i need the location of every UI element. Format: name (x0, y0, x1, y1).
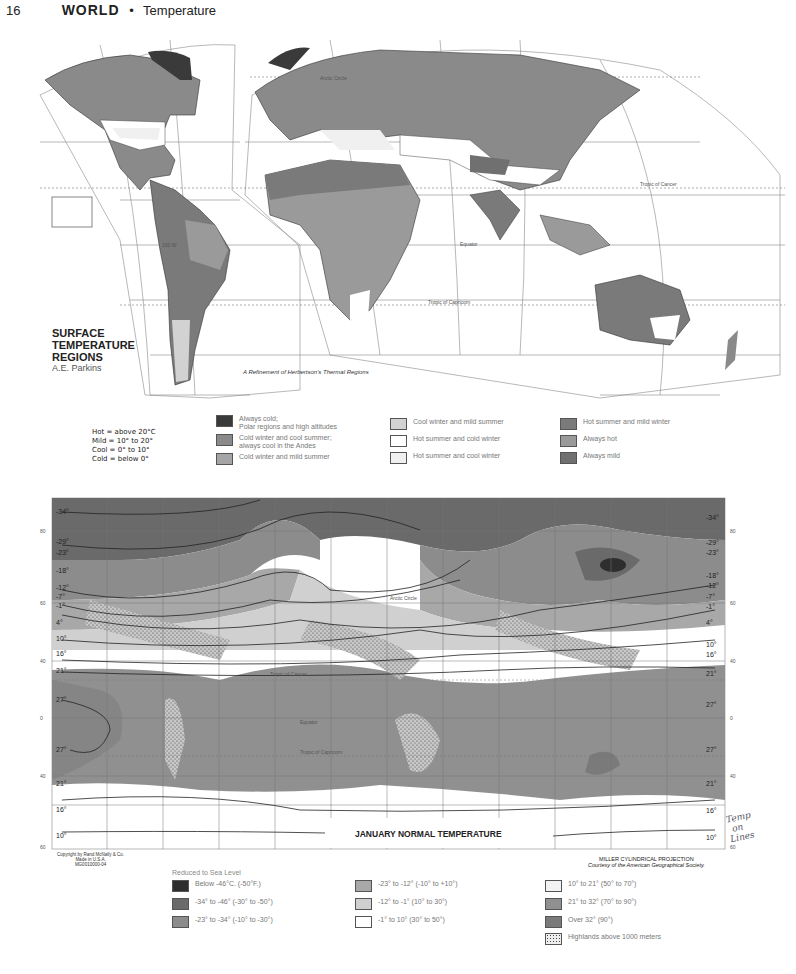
topic-title: Temperature (143, 3, 216, 18)
map-subcaption: A Refinement of Herbertson's Thermal Reg… (243, 369, 369, 375)
isotherm-label: -29° (706, 539, 719, 546)
legend-item: Over 32° (90°) (545, 916, 613, 928)
isotherm-label: -34° (706, 514, 719, 521)
legend-swatch (390, 418, 407, 430)
map-author: A.E. Parkins (52, 363, 102, 373)
legend-item: 10° to 21° (50° to 70°) (545, 880, 636, 892)
legend-item: -34° to -46° (-30° to -50°) (172, 898, 273, 910)
legend-label: 10° to 21° (50° to 70°) (568, 880, 636, 888)
key-line: Cool = 0° to 10° (92, 446, 156, 455)
courtesy-line: Courtesy of the American Geographical So… (588, 862, 705, 868)
legend-item: Highlands above 1000 meters (545, 933, 661, 945)
isotherm-label: 10° (56, 832, 67, 839)
isotherm-label: 27° (706, 701, 717, 708)
legend-heading: Reduced to Sea Level (172, 869, 241, 876)
title-line: REGIONS (52, 351, 135, 363)
isotherm-label: -34° (56, 508, 69, 515)
legend-label: 21° to 32° (70° to 90°) (568, 898, 636, 906)
legend-label: Hot summer and cold winter (413, 435, 500, 443)
legend-label: Cold winter and mild summer (239, 453, 330, 461)
title-line: TEMPERATURE (52, 339, 135, 351)
isotherm-label: -7° (706, 593, 715, 600)
legend-label: Always cold; Polar regions and high alti… (239, 415, 337, 431)
isotherm-label: -23° (56, 549, 69, 556)
legend-swatch (545, 880, 562, 892)
isotherm-label: 16° (706, 807, 717, 814)
legend-swatch (560, 435, 577, 447)
svg-text:Equator: Equator (460, 241, 478, 247)
isotherm-label: -7° (56, 593, 65, 600)
legend-item: Hot summer and cool winter (390, 452, 500, 464)
svg-text:Arctic Circle: Arctic Circle (320, 75, 347, 81)
legend-swatch (560, 418, 577, 430)
isotherm-label: 10° (56, 635, 67, 642)
section-title: WORLD (62, 2, 120, 18)
legend-item: -23° to -12° (-10° to +10°) (355, 880, 458, 892)
isotherm-label: 16° (56, 806, 67, 813)
surface-map-title: SURFACE TEMPERATURE REGIONS (52, 327, 135, 363)
isotherm-label: 27° (56, 696, 67, 703)
legend-label: Cold winter and cool summer; always cool… (239, 434, 332, 450)
legend-label: -1° to 10° (30° to 50°) (378, 916, 445, 924)
highlands-swatch (545, 933, 562, 945)
legend-swatch (172, 916, 189, 928)
projection-note: MILLER CYLINDRICAL PROJECTION Courtesy o… (588, 856, 705, 868)
isotherm-label: 16° (56, 650, 67, 657)
legend-label: -12° to -1° (10° to 30°) (378, 898, 447, 906)
legend-item: Always mild (560, 452, 620, 464)
legend-label: Hot summer and mild winter (583, 418, 670, 426)
isotherm-label: 16° (706, 651, 717, 658)
legend-swatch (172, 880, 189, 892)
legend-item: Cool winter and mild summer (390, 418, 504, 430)
legend-label: -23° to -12° (-10° to +10°) (378, 880, 458, 888)
isotherm-label: -29° (56, 538, 69, 545)
legend-item: Below -46°C. (-50°F.) (172, 880, 261, 892)
legend-label: Always hot (583, 435, 617, 443)
svg-text:Tropic of Cancer: Tropic of Cancer (640, 181, 677, 187)
isotherm-label: 27° (706, 746, 717, 753)
legend-label: Highlands above 1000 meters (568, 933, 661, 941)
svg-text:Tropic of Capricorn: Tropic of Capricorn (428, 299, 471, 305)
isotherm-label: 10° (706, 834, 717, 841)
isotherm-label: -12° (706, 582, 719, 589)
legend-item: -1° to 10° (30° to 50°) (355, 916, 445, 928)
legend-item: Cold winter and mild summer (216, 453, 330, 465)
copyright-line: MG0010000-04 (57, 862, 124, 867)
legend-label: Hot summer and cool winter (413, 452, 500, 460)
temperature-key: Hot = above 20°C Mild = 10° to 20° Cool … (92, 428, 156, 464)
key-line: Hot = above 20°C (92, 428, 156, 437)
legend-swatch (560, 452, 577, 464)
legend-item: -12° to -1° (10° to 30°) (355, 898, 447, 910)
legend-label: -34° to -46° (-30° to -50°) (195, 898, 273, 906)
legend-item: Cold winter and cool summer; always cool… (216, 434, 332, 450)
legend-label: Cool winter and mild summer (413, 418, 504, 426)
legend-label: Below -46°C. (-50°F.) (195, 880, 261, 888)
isotherm-label: 4° (56, 619, 63, 626)
title-line: SURFACE (52, 327, 135, 339)
legend-label: Always mild (583, 452, 620, 460)
isotherm-label: 21° (56, 667, 67, 674)
legend-item: Always cold; Polar regions and high alti… (216, 415, 337, 431)
legend-swatch (355, 916, 372, 928)
isotherm-label: -23° (706, 549, 719, 556)
legend-label: -23° to -34° (-10° to -30°) (195, 916, 273, 924)
legend-swatch (545, 898, 562, 910)
legend-swatch (545, 916, 562, 928)
page-header: 16 WORLD • Temperature (6, 2, 216, 18)
isotherm-label: 4° (706, 619, 713, 626)
isotherm-label: -18° (706, 572, 719, 579)
isotherm-label: 21° (706, 670, 717, 677)
legend-swatch (216, 434, 233, 446)
legend-swatch (390, 452, 407, 464)
legend-item: -23° to -34° (-10° to -30°) (172, 916, 273, 928)
separator: • (129, 3, 134, 18)
isotherm-label: 27° (56, 746, 67, 753)
page-number: 16 (6, 3, 58, 18)
legend-item: 21° to 32° (70° to 90°) (545, 898, 636, 910)
isotherm-label: -18° (56, 567, 69, 574)
isotherm-label: -12° (56, 584, 69, 591)
isotherm-label: 21° (56, 780, 67, 787)
legend-swatch (216, 453, 233, 465)
lon-label: 100 W (162, 242, 177, 248)
legend-swatch (216, 415, 233, 427)
